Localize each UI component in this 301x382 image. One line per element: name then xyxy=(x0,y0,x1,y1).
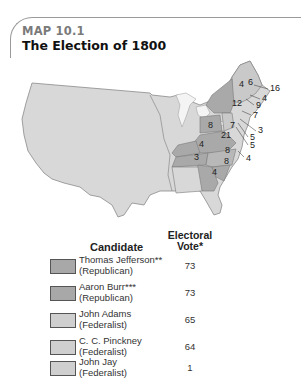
color-swatch xyxy=(50,313,76,328)
color-swatch xyxy=(50,259,76,274)
vote-label-ny: 12 xyxy=(232,98,242,108)
candidate-name: John Jay (Federalist) xyxy=(79,357,127,378)
electoral-vote-value: 1 xyxy=(160,362,220,373)
party-label: (Federalist) xyxy=(79,320,131,331)
legend-row: Aaron Burr*** (Republican) 73 xyxy=(0,282,291,310)
vote-label-nc-a: 8 xyxy=(225,145,230,155)
legend-row: John Jay (Federalist) 1 xyxy=(0,357,291,382)
vote-label-nj: 7 xyxy=(230,120,235,130)
map-number: MAP 10.1 xyxy=(22,24,85,38)
vote-label-nj-2: 7 xyxy=(253,110,258,120)
legend-row: John Adams (Federalist) 65 xyxy=(0,309,291,337)
vote-label-vt: 4 xyxy=(239,79,244,89)
vote-label-tn: 3 xyxy=(194,152,199,162)
vote-label-nc-b: 4 xyxy=(246,153,251,163)
candidate-label: Thomas Jefferson** xyxy=(79,255,162,266)
vote-label-ga: 4 xyxy=(212,167,217,177)
legend-row: Thomas Jefferson** (Republican) 73 xyxy=(0,255,291,283)
vote-label-nh: 6 xyxy=(248,77,253,87)
vote-label-md-b: 5 xyxy=(250,140,255,150)
candidate-name: John Adams (Federalist) xyxy=(79,309,131,330)
color-swatch xyxy=(50,340,76,355)
header-vote-line2: Vote* xyxy=(160,241,220,252)
electoral-vote-value: 65 xyxy=(160,314,220,325)
column-header-electoral-vote: Electoral Vote* xyxy=(160,230,220,252)
vote-label-de: 3 xyxy=(258,125,263,135)
color-swatch xyxy=(50,286,76,301)
vote-label-ma: 16 xyxy=(270,83,280,93)
candidate-name: Aaron Burr*** (Republican) xyxy=(79,282,136,303)
vote-label-ri: 4 xyxy=(262,93,267,103)
vote-label-pa: 8 xyxy=(208,120,213,130)
color-swatch xyxy=(50,361,76,376)
map-title: The Election of 1800 xyxy=(22,38,166,53)
state-new-york xyxy=(206,79,234,113)
electoral-vote-value: 73 xyxy=(160,287,220,298)
party-label: (Federalist) xyxy=(79,368,127,379)
vote-label-ky: 4 xyxy=(199,139,204,149)
candidate-label: John Jay xyxy=(79,357,127,368)
vote-label-sc: 8 xyxy=(224,156,229,166)
vote-label-ct: 9 xyxy=(256,100,261,110)
candidate-name: C. C. Pinckney (Federalist) xyxy=(79,336,142,357)
column-header-candidate: Candidate xyxy=(90,241,143,253)
candidate-label: John Adams xyxy=(79,309,131,320)
candidate-label: Aaron Burr*** xyxy=(79,282,136,293)
us-map: 6 4 16 4 9 12 8 7 7 3 5 5 21 4 3 8 4 8 4 xyxy=(0,55,291,220)
candidate-name: Thomas Jefferson** (Republican) xyxy=(79,255,162,276)
party-label: (Republican) xyxy=(79,266,162,277)
candidate-label: C. C. Pinckney xyxy=(79,336,142,347)
electoral-vote-value: 64 xyxy=(160,341,220,352)
vote-label-va: 21 xyxy=(221,130,231,140)
party-label: (Republican) xyxy=(79,293,136,304)
electoral-vote-value: 73 xyxy=(160,260,220,271)
